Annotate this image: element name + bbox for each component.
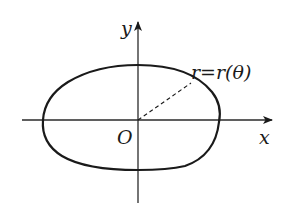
- origin-label: O: [117, 126, 133, 148]
- radius-dashed-line: [138, 83, 191, 120]
- x-axis-label: x: [259, 126, 270, 148]
- curve-label: r=r(θ): [191, 61, 251, 83]
- y-axis-label: y: [120, 17, 132, 39]
- polar-curve-diagram: y r=r(θ) O x: [0, 0, 287, 217]
